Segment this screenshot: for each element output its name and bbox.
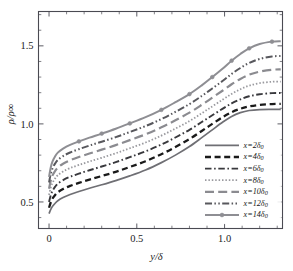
curve-marker (270, 40, 274, 44)
y-tick-label: 0.5 (20, 197, 33, 208)
density-profile-chart: 00.51.00.51.01.5y/δρ/ρ∞x=2δ0x=4δ0x=6δ0x=… (0, 0, 293, 271)
curve-marker (128, 122, 132, 126)
legend-background (201, 139, 282, 224)
curve-marker (247, 46, 251, 50)
x-tick-label: 1.0 (218, 233, 231, 244)
curve-marker (230, 59, 234, 63)
figure-container: 00.51.00.51.01.5y/δρ/ρ∞x=2δ0x=4δ0x=6δ0x=… (0, 0, 293, 271)
curve-marker (188, 92, 192, 96)
curve-marker (159, 108, 163, 112)
y-tick-label: 1.0 (20, 119, 33, 130)
curve-marker (210, 75, 214, 79)
curve-marker (100, 132, 104, 136)
x-axis-label: y/δ (149, 251, 164, 262)
legend-marker (220, 213, 224, 217)
x-tick-label: 0 (46, 233, 51, 244)
y-tick-label: 1.5 (20, 40, 33, 51)
legend: x=2δ0x=4δ0x=6δ0x=8δ0x=10δ0x=12δ0x=14δ0 (201, 139, 282, 224)
x-tick-label: 0.5 (130, 233, 143, 244)
y-axis-label: ρ/ρ∞ (5, 104, 16, 125)
curve-marker (77, 139, 81, 143)
